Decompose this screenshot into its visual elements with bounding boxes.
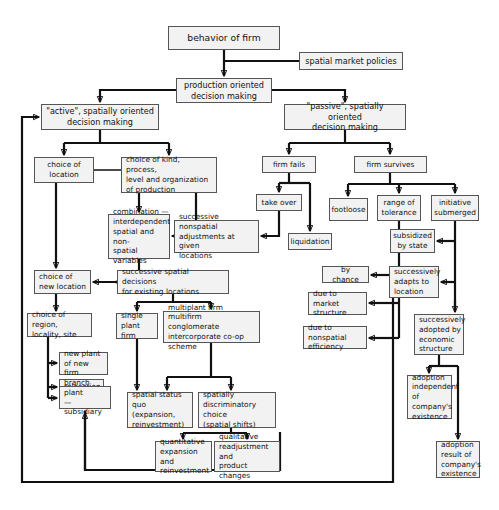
node-spatial_market_policies[interactable]: spatial market policies — [299, 52, 403, 70]
node-adoption_independent[interactable]: adoption independent of company's existe… — [407, 375, 452, 419]
node-due_to_market[interactable]: due to market structure — [308, 292, 367, 315]
node-firm_survives[interactable]: firm survives — [354, 156, 427, 173]
node-choice_of_region[interactable]: choice of region, locality, site — [27, 313, 92, 337]
node-spatial_status_quo[interactable]: spatial status quo (expansion, reinvestm… — [127, 392, 193, 428]
node-footloose[interactable]: footloose — [329, 198, 368, 221]
node-range_of_tolerance[interactable]: range of tolerance — [377, 195, 421, 221]
edge-takeover-nonspatial — [261, 211, 279, 236]
node-liquidation[interactable]: liquidation — [288, 233, 332, 250]
node-choice_of_kind[interactable]: choice of kind, process, level and organ… — [121, 157, 217, 193]
node-adoption_result[interactable]: adoption result of company's existence — [436, 441, 480, 478]
node-single_plant_firm[interactable]: single plant firm — [116, 313, 158, 339]
node-production_oriented[interactable]: production oriented decision making — [176, 78, 272, 103]
node-take_over[interactable]: take over — [256, 194, 302, 211]
node-new_plant[interactable]: new plant of new firm — [59, 352, 108, 375]
node-successively_adopted[interactable]: successively adopted by economic structu… — [414, 314, 464, 355]
node-choice_of_new_location[interactable]: choice of new location — [34, 270, 91, 294]
node-due_to_nonspatial[interactable]: due to nonspatial efficiency — [303, 326, 367, 349]
node-passive_decision[interactable]: "passive", spatially oriented decision m… — [284, 104, 406, 130]
node-spatially_discriminatory[interactable]: spatially discriminatory choice (spatial… — [198, 392, 276, 428]
node-by_chance[interactable]: by chance — [322, 266, 369, 283]
node-successively_adapts[interactable]: successively adapts to location — [389, 266, 439, 298]
flowchart-canvas: behavior of firmspatial market policiesp… — [0, 0, 499, 510]
node-multiplant_firm[interactable]: multiplant firm multifirm conglomerate i… — [163, 311, 260, 343]
node-combination[interactable]: combination — interdependent spatial and… — [108, 214, 170, 259]
edge-production-active — [100, 90, 176, 102]
node-successive_spatial[interactable]: successive spatial decisions for existin… — [117, 270, 229, 294]
node-successive_nonspatial[interactable]: successive nonspatial adjustments at giv… — [174, 220, 259, 253]
node-qualitative_readjustment[interactable]: qualitative readjustment and product cha… — [214, 441, 280, 472]
node-subsidized_by_state[interactable]: subsidized by state — [390, 229, 435, 253]
node-initiative_submerged[interactable]: initiative submerged — [431, 195, 479, 221]
node-quantitative_expansion[interactable]: quantitative expansion and reinvestment — [155, 441, 212, 472]
node-branch_plant[interactable]: branch plant — subsidiary — [59, 386, 111, 409]
node-active_decision[interactable]: "active", spatially oriented decision ma… — [41, 104, 159, 130]
node-firm_fails[interactable]: firm fails — [262, 156, 316, 173]
node-choice_of_location[interactable]: choice of location — [34, 157, 94, 183]
node-behavior_of_firm[interactable]: behavior of firm — [168, 26, 280, 50]
